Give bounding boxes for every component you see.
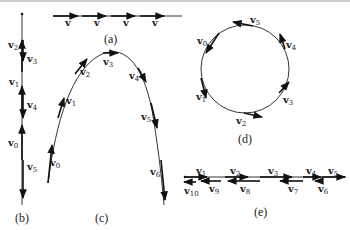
vector-label: v0 <box>196 35 207 48</box>
panel-caption: (e) <box>254 205 267 219</box>
arrow-icon <box>58 98 64 118</box>
circular-path <box>201 25 289 113</box>
vector-label: v1 <box>65 95 76 108</box>
panel-caption: (d) <box>238 132 252 146</box>
vector-label: v3 <box>282 94 293 107</box>
vector-label: v9 <box>208 183 219 196</box>
arrow-icon <box>279 82 289 93</box>
vector-label: v3 <box>26 53 37 66</box>
vector-label: v1 <box>8 76 19 89</box>
vector-label: v8 <box>239 183 250 196</box>
vector-label: v0 <box>7 137 18 150</box>
vector-label: v6 <box>317 183 329 196</box>
vector-label: v5 <box>327 165 338 178</box>
vector-label: v10 <box>183 185 199 198</box>
vector-label: v2 <box>229 165 240 178</box>
panel-c: v0 v1 v2 v3 v4 v5 v6 (c) <box>48 52 165 225</box>
vector-label: v0 <box>49 157 60 170</box>
vector-label: v <box>64 17 72 28</box>
panel-d: v5 v0 v4 v1 v3 v2 (d) <box>195 14 297 146</box>
vector-label: v5 <box>140 111 151 124</box>
arrow-icon <box>206 33 219 53</box>
vector-label: v7 <box>287 183 298 196</box>
trajectory-curve <box>48 52 164 205</box>
panel-b: v2 v3 v1 v4 v0 v5 (b) <box>7 13 38 225</box>
panel-a: v v v v (a) <box>53 16 182 46</box>
vector-label: v <box>93 17 101 28</box>
vector-label: v4 <box>26 99 38 112</box>
vector-label: v <box>151 17 159 28</box>
vector-label: v4 <box>285 39 297 52</box>
panel-caption: (a) <box>104 32 117 46</box>
vector-label: v2 <box>79 66 90 79</box>
vector-label: v1 <box>195 165 206 178</box>
panel-caption: (c) <box>95 211 108 225</box>
vector-label: v3 <box>267 165 278 178</box>
vector-label: v4 <box>305 165 317 178</box>
arrow-icon <box>244 113 262 117</box>
vector-label: v4 <box>128 70 140 83</box>
velocity-diagram: v v v v (a) v2 v3 v1 v4 v0 v5 (b) <box>0 0 350 230</box>
panel-caption: (b) <box>15 211 29 225</box>
vector-label: v3 <box>102 56 113 69</box>
vector-label: v <box>122 17 130 28</box>
vector-label: v2 <box>235 115 246 128</box>
panel-e: v1 v2 v3 v4 v5 v6 v7 v8 v9 v10 (e) <box>183 165 346 219</box>
vector-label: v5 <box>26 161 37 174</box>
vector-label: v6 <box>149 166 161 179</box>
vector-label: v2 <box>7 39 18 52</box>
